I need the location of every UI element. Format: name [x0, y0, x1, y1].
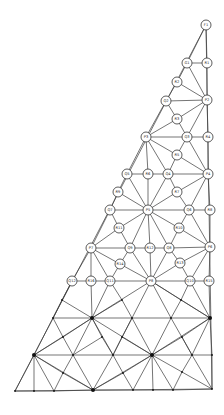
node-label: R9 [116, 190, 121, 194]
node-Q11: Q11 [105, 276, 115, 286]
mesh-vertex [62, 372, 64, 374]
mesh-diagram: F1G1R1R2Q2P2R3P3Q3R4R5Q5R6Q4P4R9R7Q7P5Q6… [0, 0, 224, 415]
edge-b1-c3 [34, 355, 54, 391]
node-R3: R3 [172, 114, 182, 124]
node-Q9: Q9 [125, 243, 135, 253]
node-label: R15 [205, 279, 212, 283]
mesh-vertex [152, 389, 154, 391]
node-label: R13 [176, 261, 183, 265]
node-G1: G1 [182, 58, 192, 68]
edge-b5-c8 [192, 355, 212, 389]
mesh-vertex [72, 354, 74, 356]
node-R16: R16 [86, 276, 96, 286]
node-R2: R2 [172, 77, 182, 87]
edge-P3-Q4 [146, 137, 168, 174]
mesh-vertex [61, 299, 63, 301]
node-Q3: Q3 [182, 132, 192, 142]
node-label: R16 [87, 279, 95, 283]
node-label: G1 [184, 61, 189, 65]
node-label: R10 [175, 226, 183, 230]
edge-m3-a4 [171, 300, 181, 318]
edge-Q4-P5 [148, 174, 168, 210]
node-label: Q2 [163, 99, 168, 103]
edge-k3-c8 [182, 372, 212, 389]
node-P8: P8 [146, 276, 156, 286]
edge-m3-a5 [181, 300, 210, 318]
edge-R15-a5 [209, 281, 210, 318]
mesh-vertex [211, 388, 213, 390]
node-label: Q4 [165, 172, 171, 176]
edge-n2-b3 [102, 337, 113, 355]
edge-P3-R6 [146, 137, 148, 174]
node-P4: P4 [203, 169, 213, 179]
edge-b4-c7 [152, 355, 173, 390]
mesh-vertex [208, 316, 212, 320]
node-label: R8 [208, 208, 213, 212]
edge-P8-a4 [151, 281, 171, 318]
edge-a1-n1 [53, 318, 63, 337]
mesh-vertex [172, 389, 174, 391]
mesh-vertex [122, 372, 124, 374]
mesh-vertex [181, 371, 183, 373]
node-label: P7 [89, 246, 93, 250]
node-R10: R10 [174, 223, 184, 233]
edge-k1-c3 [54, 373, 63, 391]
mesh-vertex [121, 336, 123, 338]
node-Q6: Q6 [184, 205, 194, 215]
edge-b2-c4 [73, 355, 93, 390]
mesh-vertex [90, 316, 94, 320]
edge-Q5-P5 [127, 174, 148, 210]
node-label: R12 [146, 246, 153, 250]
node-R8: R8 [205, 205, 215, 215]
node-P5: P5 [143, 205, 153, 215]
labeled-nodes: F1G1R1R2Q2P2R3P3Q3R4R5Q5R6Q4P4R9R7Q7P5Q6… [67, 20, 215, 286]
node-Q10: Q10 [185, 276, 195, 286]
edge-a5-n4 [182, 318, 210, 337]
mesh-vertex [131, 317, 133, 319]
node-label: Q5 [124, 172, 129, 176]
node-R4: R4 [203, 132, 213, 142]
node-Q5: Q5 [122, 169, 132, 179]
node-label: Q3 [184, 135, 189, 139]
mesh-vertex [53, 390, 55, 392]
node-Q2: Q2 [161, 96, 171, 106]
node-label: P4 [206, 172, 211, 176]
node-R5: R5 [172, 150, 182, 160]
edge-k2-c5 [123, 373, 133, 390]
node-label: Q6 [186, 208, 192, 212]
node-label: P8 [149, 279, 154, 283]
edge-Q6-P6 [189, 210, 210, 247]
edge-m2-a3 [122, 300, 132, 318]
edge-b3-c4 [93, 355, 113, 390]
node-label: Q9 [127, 246, 133, 250]
node-label: P3 [144, 135, 148, 139]
edge-P5-R12 [148, 210, 150, 248]
mesh-vertex [180, 299, 182, 301]
edge-R16-a2 [91, 281, 92, 318]
edge-P2-Q3 [187, 100, 207, 137]
mesh-vertex [211, 354, 213, 356]
node-label: R11 [115, 226, 122, 230]
node-R9: R9 [113, 187, 123, 197]
mesh-vertex [52, 317, 54, 319]
edge-b5-k3 [182, 355, 192, 372]
node-label: P5 [146, 208, 150, 212]
node-label: R6 [146, 172, 151, 176]
node-label: R4 [206, 135, 211, 139]
node-Q4: Q4 [163, 169, 173, 179]
mesh-vertex [32, 353, 36, 357]
node-label: R14 [116, 262, 124, 266]
node-label: F1 [204, 23, 208, 27]
node-label: Q7 [107, 208, 112, 212]
edge-b4-c6 [152, 355, 153, 390]
node-Q12: Q12 [67, 276, 77, 286]
edge-b2-k1 [63, 355, 73, 373]
mesh-vertex [14, 390, 16, 392]
node-label: R5 [175, 153, 180, 157]
edge-R5-P4 [177, 155, 208, 174]
mesh-vertex [150, 353, 154, 357]
node-Q7: Q7 [105, 205, 115, 215]
edge-k3-c7 [173, 372, 182, 390]
mesh-vertex [121, 299, 123, 301]
edge-a3-b4 [132, 318, 152, 355]
